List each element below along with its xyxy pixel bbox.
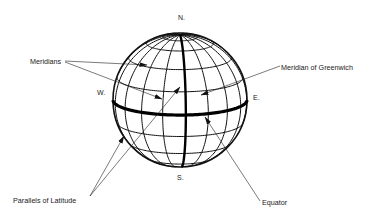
south-label: S. bbox=[177, 174, 184, 181]
greenwich-meridian-line bbox=[180, 35, 186, 167]
east-label: E. bbox=[253, 94, 260, 101]
meridian-line bbox=[163, 35, 180, 167]
north-label: N. bbox=[178, 14, 185, 21]
meridians-label: Meridians bbox=[30, 57, 62, 66]
meridian-of-greenwich-label: Meridian of Greenwich bbox=[281, 63, 353, 72]
meridian-line bbox=[180, 35, 227, 165]
parallels-arrow-1 bbox=[90, 136, 124, 196]
equator-label: Equator bbox=[262, 198, 288, 207]
meridian-line bbox=[180, 35, 247, 124]
globe-diagram: N. S. W. E. Meridians Meridian of Greenw… bbox=[0, 0, 377, 219]
parallels bbox=[117, 34, 243, 164]
callouts bbox=[65, 61, 280, 201]
meridian-line bbox=[125, 35, 180, 164]
west-label: W. bbox=[97, 89, 105, 96]
parallels-of-latitude-label: Parallels of Latitude bbox=[13, 196, 76, 205]
parallel-line bbox=[129, 56, 232, 70]
meridian-line bbox=[142, 35, 180, 166]
globe bbox=[113, 33, 247, 167]
meridian-line bbox=[180, 35, 241, 160]
parallels-arrow-2 bbox=[90, 87, 180, 196]
